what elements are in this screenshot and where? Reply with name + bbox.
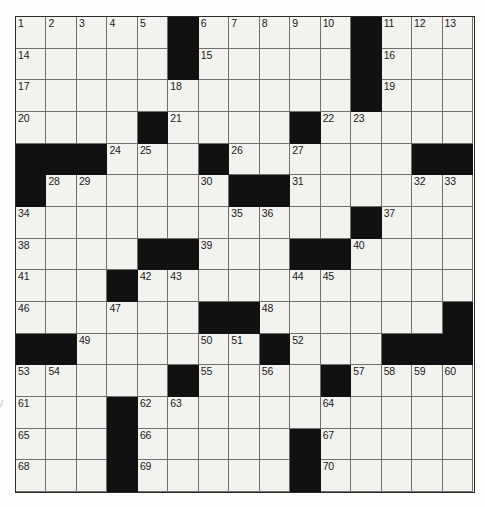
letter-cell[interactable] <box>321 175 351 207</box>
letter-cell[interactable] <box>412 270 442 302</box>
letter-cell[interactable] <box>382 175 412 207</box>
letter-cell[interactable] <box>46 270 76 302</box>
letter-cell[interactable] <box>351 175 381 207</box>
letter-cell[interactable]: 44 <box>290 270 320 302</box>
letter-cell[interactable] <box>107 112 137 144</box>
letter-cell[interactable] <box>199 397 229 429</box>
letter-cell[interactable] <box>351 460 381 492</box>
letter-cell[interactable]: 61 <box>16 397 46 429</box>
letter-cell[interactable]: 67 <box>321 429 351 461</box>
letter-cell[interactable]: 28 <box>46 175 76 207</box>
letter-cell[interactable]: 48 <box>260 302 290 334</box>
letter-cell[interactable]: 24 <box>107 144 137 176</box>
letter-cell[interactable] <box>443 49 473 81</box>
letter-cell[interactable] <box>77 207 107 239</box>
letter-cell[interactable]: 5 <box>138 17 168 49</box>
letter-cell[interactable] <box>77 239 107 271</box>
letter-cell[interactable] <box>46 112 76 144</box>
letter-cell[interactable] <box>321 334 351 366</box>
letter-cell[interactable] <box>107 49 137 81</box>
letter-cell[interactable] <box>351 144 381 176</box>
letter-cell[interactable] <box>382 144 412 176</box>
letter-cell[interactable] <box>412 397 442 429</box>
letter-cell[interactable]: 19 <box>382 80 412 112</box>
letter-cell[interactable]: 46 <box>16 302 46 334</box>
letter-cell[interactable] <box>351 270 381 302</box>
letter-cell[interactable] <box>138 365 168 397</box>
letter-cell[interactable] <box>443 112 473 144</box>
letter-cell[interactable]: 37 <box>382 207 412 239</box>
letter-cell[interactable] <box>77 365 107 397</box>
letter-cell[interactable] <box>382 239 412 271</box>
letter-cell[interactable] <box>290 302 320 334</box>
letter-cell[interactable]: 18 <box>168 80 198 112</box>
letter-cell[interactable] <box>321 207 351 239</box>
letter-cell[interactable]: 43 <box>168 270 198 302</box>
letter-cell[interactable] <box>382 302 412 334</box>
letter-cell[interactable] <box>229 365 259 397</box>
letter-cell[interactable] <box>107 365 137 397</box>
letter-cell[interactable]: 33 <box>443 175 473 207</box>
letter-cell[interactable] <box>199 460 229 492</box>
letter-cell[interactable]: 47 <box>107 302 137 334</box>
letter-cell[interactable]: 59 <box>412 365 442 397</box>
letter-cell[interactable] <box>290 397 320 429</box>
letter-cell[interactable]: 12 <box>412 17 442 49</box>
letter-cell[interactable]: 65 <box>16 429 46 461</box>
letter-cell[interactable]: 57 <box>351 365 381 397</box>
letter-cell[interactable]: 58 <box>382 365 412 397</box>
letter-cell[interactable]: 7 <box>229 17 259 49</box>
letter-cell[interactable] <box>229 429 259 461</box>
letter-cell[interactable] <box>199 112 229 144</box>
letter-cell[interactable]: 68 <box>16 460 46 492</box>
letter-cell[interactable] <box>443 80 473 112</box>
letter-cell[interactable] <box>229 112 259 144</box>
letter-cell[interactable] <box>412 460 442 492</box>
letter-cell[interactable] <box>382 112 412 144</box>
letter-cell[interactable]: 13 <box>443 17 473 49</box>
letter-cell[interactable] <box>46 429 76 461</box>
letter-cell[interactable] <box>351 302 381 334</box>
letter-cell[interactable]: 10 <box>321 17 351 49</box>
letter-cell[interactable] <box>260 112 290 144</box>
letter-cell[interactable] <box>46 207 76 239</box>
letter-cell[interactable]: 8 <box>260 17 290 49</box>
letter-cell[interactable]: 36 <box>260 207 290 239</box>
letter-cell[interactable]: 15 <box>199 49 229 81</box>
letter-cell[interactable] <box>77 397 107 429</box>
letter-cell[interactable] <box>382 397 412 429</box>
letter-cell[interactable]: 69 <box>138 460 168 492</box>
letter-cell[interactable]: 40 <box>351 239 381 271</box>
letter-cell[interactable]: 54 <box>46 365 76 397</box>
letter-cell[interactable]: 34 <box>16 207 46 239</box>
letter-cell[interactable] <box>138 49 168 81</box>
letter-cell[interactable] <box>260 270 290 302</box>
letter-cell[interactable]: 52 <box>290 334 320 366</box>
letter-cell[interactable]: 38 <box>16 239 46 271</box>
letter-cell[interactable] <box>321 302 351 334</box>
letter-cell[interactable] <box>290 365 320 397</box>
letter-cell[interactable] <box>199 270 229 302</box>
letter-cell[interactable] <box>46 460 76 492</box>
letter-cell[interactable] <box>107 207 137 239</box>
letter-cell[interactable] <box>138 334 168 366</box>
letter-cell[interactable]: 17 <box>16 80 46 112</box>
letter-cell[interactable] <box>138 207 168 239</box>
letter-cell[interactable] <box>168 429 198 461</box>
letter-cell[interactable]: 70 <box>321 460 351 492</box>
letter-cell[interactable] <box>260 429 290 461</box>
letter-cell[interactable] <box>351 397 381 429</box>
letter-cell[interactable]: 50 <box>199 334 229 366</box>
letter-cell[interactable] <box>46 239 76 271</box>
letter-cell[interactable]: 25 <box>138 144 168 176</box>
letter-cell[interactable] <box>321 49 351 81</box>
letter-cell[interactable]: 62 <box>138 397 168 429</box>
letter-cell[interactable] <box>260 144 290 176</box>
letter-cell[interactable] <box>168 460 198 492</box>
letter-cell[interactable]: 64 <box>321 397 351 429</box>
letter-cell[interactable] <box>412 112 442 144</box>
letter-cell[interactable] <box>107 175 137 207</box>
letter-cell[interactable] <box>46 49 76 81</box>
letter-cell[interactable]: 1 <box>16 17 46 49</box>
letter-cell[interactable] <box>412 302 442 334</box>
